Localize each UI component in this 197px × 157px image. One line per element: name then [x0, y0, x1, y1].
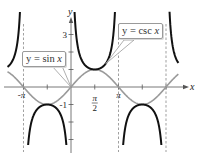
y-tick-label: -1: [60, 100, 68, 110]
sin-callout-var: x: [57, 53, 62, 64]
x-tick-label: -π: [18, 90, 26, 100]
svg-text:2: 2: [93, 103, 98, 113]
csc-branch: [28, 105, 66, 146]
csc-branch: [170, 12, 179, 63]
csc-branch: [8, 12, 20, 67]
sin-legend-callout: y = sin x: [22, 51, 66, 67]
csc-legend-callout: y = csc x: [118, 23, 163, 39]
csc-branch: [123, 105, 161, 146]
x-axis-arrow-icon: [183, 85, 189, 89]
y-axis-arrow-icon: [69, 17, 73, 23]
svg-text:π: π: [92, 93, 97, 103]
csc-callout-text: y = csc: [122, 25, 154, 36]
csc-callout-var: x: [154, 25, 159, 36]
sin-callout-pointer: [52, 66, 71, 87]
y-axis-label: y: [67, 6, 73, 17]
x-axis-label: x: [189, 81, 195, 92]
x-tick-label: π: [116, 90, 121, 100]
chart-canvas: -ππ2π 3-1 x y: [0, 0, 197, 157]
y-tick-label: 3: [63, 30, 68, 40]
x-tick-label: π2: [92, 93, 98, 113]
x-ticks: -ππ2π: [18, 85, 166, 114]
sin-callout-text: y = sin: [26, 53, 57, 64]
